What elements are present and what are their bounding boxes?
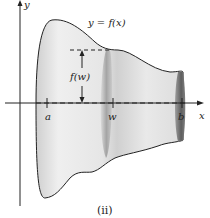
end-cap-b bbox=[175, 72, 185, 142]
figure-caption: (ii) bbox=[97, 204, 113, 217]
function-label: y = f(x) bbox=[87, 17, 126, 28]
y-axis-label: y bbox=[23, 0, 30, 10]
tick-label-w: w bbox=[108, 111, 117, 122]
x-axis-label: x bbox=[199, 110, 205, 121]
x-axis-arrow bbox=[197, 101, 204, 106]
height-label-fw: f(w) bbox=[69, 71, 90, 82]
y-axis-arrow bbox=[18, 0, 23, 6]
solid-of-revolution-diagram: y y = f(x) f(w) a w b x (ii) bbox=[0, 0, 210, 218]
tick-label-a: a bbox=[45, 111, 51, 122]
tick-label-b: b bbox=[178, 111, 184, 122]
